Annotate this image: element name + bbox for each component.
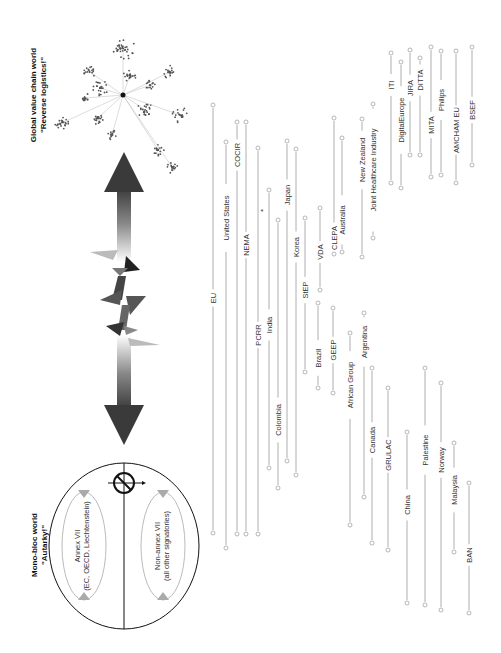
actor-start-node	[362, 311, 366, 315]
network-node	[120, 56, 122, 58]
network-node	[124, 76, 126, 78]
network-node	[174, 116, 176, 118]
nonannex-loop-arrow-bottom	[157, 592, 169, 600]
annex-loop-arrow-bottom	[78, 592, 90, 600]
actor-start-node	[467, 481, 471, 485]
actor-jira: JIRA	[406, 48, 415, 157]
network-node	[117, 49, 119, 51]
actor-bsef: BSEF	[468, 45, 477, 167]
actor-label: PCRR	[254, 324, 263, 346]
network-node	[119, 48, 121, 50]
actor-label: DigitalEurope	[397, 97, 406, 142]
actor-end-node	[371, 236, 375, 240]
network-node	[172, 113, 174, 115]
double-arrow	[90, 152, 160, 445]
actor-end-node	[370, 541, 374, 545]
actor-end-node	[285, 459, 289, 463]
network-node	[96, 85, 98, 87]
actor-start-node	[423, 366, 427, 370]
network-node	[104, 92, 106, 94]
actor-start-node	[418, 56, 422, 60]
network-node	[177, 112, 179, 114]
network-node	[157, 153, 159, 155]
network-node	[95, 81, 97, 83]
network-node	[98, 95, 100, 97]
network-node	[163, 73, 165, 75]
actor-step: StEP	[301, 216, 310, 374]
global-subtitle: "Reverse logistics!"	[39, 57, 48, 133]
network-node	[82, 99, 84, 101]
network-node	[156, 147, 158, 149]
actor-end-node	[429, 175, 433, 179]
network-node	[154, 83, 156, 85]
network-node	[63, 121, 65, 123]
network-node	[145, 106, 147, 108]
actor-new-zealand: New Zealand	[358, 117, 367, 259]
actor-geep: GEEP	[329, 306, 338, 395]
actor-lines: EUUnited StatesCOCIRNEMAPCRRIndiaColombi…	[209, 45, 477, 615]
annex-loop-arrow-top	[78, 490, 90, 498]
network-node	[113, 51, 115, 53]
actor-end-node	[386, 548, 390, 552]
actor-end-node	[399, 186, 403, 190]
network-node	[149, 84, 151, 86]
network-node	[86, 67, 88, 69]
actor-start-node	[399, 60, 403, 64]
network-node	[87, 93, 89, 95]
actor-label: United States	[222, 195, 231, 240]
actor-end-node	[348, 523, 352, 527]
actor-label: Philips	[437, 89, 446, 111]
actor-start-node	[303, 216, 307, 220]
network-node	[93, 86, 95, 88]
nonannex-label: Non-annex VII	[153, 522, 162, 570]
actor-end-node	[316, 386, 320, 390]
network-node	[65, 119, 67, 121]
network-node	[113, 131, 115, 133]
network-node	[102, 119, 104, 121]
actor-start-node	[454, 49, 458, 53]
annex-label: Annex VII	[73, 530, 82, 563]
network-node	[117, 45, 119, 47]
network-node	[126, 74, 128, 76]
network-graph	[54, 39, 187, 173]
network-edge	[123, 95, 172, 167]
network-node	[169, 73, 171, 75]
actor-ditta: DITTA	[416, 56, 425, 157]
network-node	[149, 108, 151, 110]
network-node	[171, 70, 173, 72]
network-node	[124, 46, 126, 48]
actor-nema: NEMA	[242, 120, 251, 536]
actor-end-node	[340, 250, 344, 254]
network-node	[183, 107, 185, 109]
network-edge	[123, 95, 158, 150]
actor-philips: Philips	[437, 49, 446, 177]
actor-end-node	[276, 486, 280, 490]
network-node	[110, 136, 112, 138]
actor-end-node	[318, 288, 322, 292]
actor-end-node	[235, 532, 239, 536]
network-node	[152, 86, 154, 88]
network-node	[126, 80, 128, 82]
actor-label: BAN	[465, 547, 474, 562]
arrow-head-up	[104, 152, 144, 192]
actor-start-node	[224, 140, 228, 144]
actor-label: African Group	[346, 362, 355, 408]
actor-label: Korea	[292, 236, 301, 257]
network-node	[98, 122, 100, 124]
network-node	[110, 131, 112, 133]
network-node	[132, 52, 134, 54]
actor-grulac: GRULAC	[384, 386, 393, 552]
actor-end-node	[418, 153, 422, 157]
actor-colombia: Colombia	[274, 218, 283, 490]
network-node	[169, 75, 171, 77]
network-node	[115, 135, 117, 137]
actor-end-node	[256, 532, 260, 536]
asterisk: *	[261, 207, 264, 216]
network-node	[100, 115, 102, 117]
global-value-chain-world: Global value chain world "Reverse logist…	[29, 39, 188, 173]
actor-label: GEEP	[329, 340, 338, 361]
arrow-shaft-up	[117, 192, 131, 262]
network-node	[149, 81, 151, 83]
network-node	[120, 50, 122, 52]
network-node	[102, 87, 104, 89]
